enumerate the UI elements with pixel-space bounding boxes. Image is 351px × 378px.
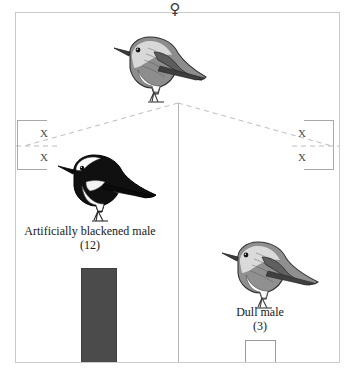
right-cage [304,120,334,170]
right-condition-text: Dull male [236,305,284,319]
left-condition-count: (12) [10,238,170,252]
right-cage-mark-bottom: X [298,152,306,163]
left-condition-text: Artificially blackened male [24,224,155,238]
left-cage-mark-top: X [40,128,48,139]
blackened-male-bird-illustration [54,142,164,224]
right-condition-count: (3) [200,319,320,333]
right-cage-mark-top: X [298,128,306,139]
bar-artificially-blackened-male [81,268,117,363]
right-condition-label: Dull male (3) [200,305,320,333]
left-cage-mark-bottom: X [40,152,48,163]
dull-male-bird-illustration [218,228,326,310]
bar-dull-male [245,340,276,363]
figure-canvas: ♀ [0,0,351,378]
left-condition-label: Artificially blackened male (12) [10,224,170,252]
center-divider [178,103,179,363]
chart-baseline [16,362,339,363]
